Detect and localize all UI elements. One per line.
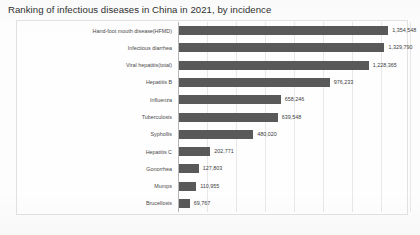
- bar: [179, 78, 330, 87]
- bar-container: 639,548: [179, 110, 301, 124]
- bar-container: 976,233: [179, 75, 353, 89]
- bar: [179, 95, 281, 104]
- category-label: Tuberculosis: [0, 110, 172, 124]
- bar-row: Hand-foot mouth disease(HFMD)1,354,548: [0, 24, 420, 38]
- bar: [179, 164, 199, 173]
- bar-container: 1,329,790: [179, 41, 412, 55]
- bar-row: Hepatitis B976,233: [0, 75, 420, 89]
- bar-container: 127,803: [179, 162, 222, 176]
- bar-row: Hepatitis C202,771: [0, 145, 420, 159]
- bar: [179, 61, 369, 70]
- bar-container: 1,228,365: [179, 58, 397, 72]
- bar-container: 1,354,548: [179, 24, 416, 38]
- bar-value-label: 639,548: [282, 113, 302, 122]
- bar: [179, 182, 196, 191]
- bar-value-label: 202,771: [214, 147, 234, 156]
- bar-container: 110,955: [179, 179, 219, 193]
- bar-row: Infectious diarrhea1,329,790: [0, 41, 420, 55]
- bar-value-label: 658,246: [285, 95, 305, 104]
- bar-row: Gonorrhea127,803: [0, 162, 420, 176]
- bar: [179, 113, 278, 122]
- bar-row: Tuberculosis639,548: [0, 110, 420, 124]
- bar-value-label: 480,020: [257, 130, 277, 139]
- bar-value-label: 127,803: [203, 164, 223, 173]
- bar-row: Mumps110,955: [0, 179, 420, 193]
- bar-container: 658,246: [179, 93, 304, 107]
- page-title: Ranking of infectious diseases in China …: [8, 4, 271, 15]
- bar-value-label: 110,955: [200, 182, 219, 191]
- bar-value-label: 1,354,548: [392, 26, 416, 35]
- category-label: Hepatitis B: [0, 75, 172, 89]
- bar: [179, 130, 253, 139]
- category-label: Gonorrhea: [0, 162, 172, 176]
- bar-row: Viral hepatitis(total)1,228,365: [0, 58, 420, 72]
- bar-row: Brucellosis69,767: [0, 196, 420, 210]
- bar-container: 202,771: [179, 145, 234, 159]
- bar-value-label: 1,329,790: [388, 43, 412, 52]
- bar-container: 480,020: [179, 127, 277, 141]
- category-label: Mumps: [0, 179, 172, 193]
- category-label: Viral hepatitis(total): [0, 58, 172, 72]
- bar-row: Syphollis480,020: [0, 127, 420, 141]
- chart-figure: Ranking of infectious diseases in China …: [0, 0, 420, 235]
- bar: [179, 26, 388, 35]
- bar-value-label: 976,233: [334, 78, 354, 87]
- category-label: Infectious diarrhea: [0, 41, 172, 55]
- category-label: Brucellosis: [0, 196, 172, 210]
- bar-value-label: 69,767: [194, 199, 211, 208]
- category-label: Hepatitis C: [0, 145, 172, 159]
- bar: [179, 199, 190, 208]
- bar: [179, 43, 384, 52]
- category-label: Syphollis: [0, 127, 172, 141]
- bar-container: 69,767: [179, 196, 210, 210]
- category-label: Hand-foot mouth disease(HFMD): [0, 24, 172, 38]
- bar: [179, 147, 210, 156]
- category-label: Influenza: [0, 93, 172, 107]
- bar-value-label: 1,228,365: [373, 61, 397, 70]
- bar-rows: Hand-foot mouth disease(HFMD)1,354,548In…: [0, 22, 420, 212]
- bar-row: Influenza658,246: [0, 93, 420, 107]
